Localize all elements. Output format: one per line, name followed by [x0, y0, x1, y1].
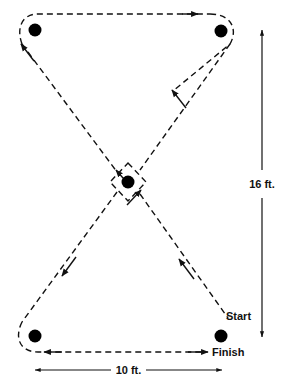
arrow-lower-left-diagonal	[62, 257, 76, 276]
drill-diagram-figure: 16 ft. 10 ft. Start Finish	[0, 0, 283, 390]
path-lower-left-diagonal	[22, 192, 117, 322]
arrow-center-lower-right	[127, 190, 141, 205]
vertical-dimension-label: 16 ft.	[249, 178, 275, 190]
path-upper-left-diagonal	[22, 44, 117, 172]
top-left-cone	[29, 24, 42, 37]
bottom-left-cone	[29, 330, 42, 343]
path-bottom-edge	[19, 322, 204, 352]
finish-label: Finish	[212, 346, 245, 358]
arrow-lower-right-diagonal	[179, 259, 194, 279]
direction-arrow-group	[21, 14, 208, 352]
top-right-cone	[215, 25, 228, 38]
bottom-right-cone	[215, 330, 228, 343]
arrow-upper-left-diagonal	[21, 44, 34, 61]
path-lower-right-diagonal	[140, 194, 228, 318]
center-cone	[122, 176, 135, 189]
arrow-upper-right-diagonal	[172, 90, 186, 108]
diagram-canvas: 16 ft. 10 ft. Start Finish	[0, 0, 283, 390]
start-label: Start	[226, 310, 251, 322]
cone-group	[29, 24, 228, 343]
path-top-edge	[20, 14, 210, 44]
horizontal-dimension-label: 10 ft.	[116, 364, 142, 376]
